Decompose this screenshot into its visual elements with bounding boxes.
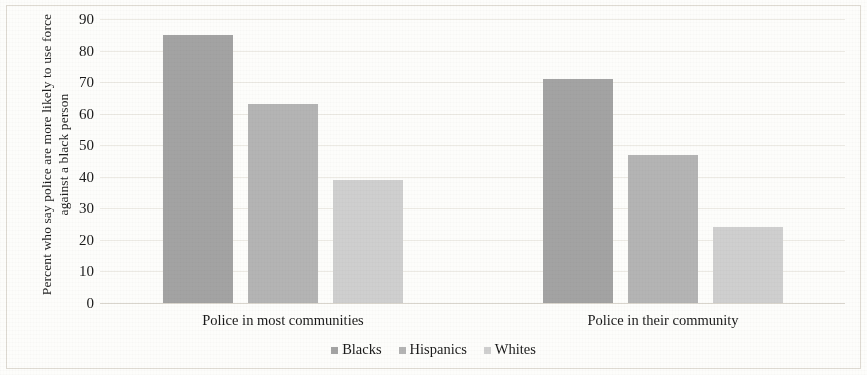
legend-label: Whites <box>495 341 536 358</box>
legend-swatch-icon <box>331 347 338 354</box>
legend-swatch-icon <box>484 347 491 354</box>
y-axis-tick-label: 20 <box>79 231 94 248</box>
y-axis-tick-label: 90 <box>79 11 94 28</box>
x-axis-category-label: Police in most communities <box>202 312 364 329</box>
bar-whites-2 <box>713 227 783 303</box>
legend-item-whites: Whites <box>484 341 536 358</box>
chart-legend: BlacksHispanicsWhites <box>0 341 867 358</box>
y-axis-tick-label: 0 <box>87 295 95 312</box>
bar-hispanics-2 <box>628 155 698 303</box>
bar-blacks-2 <box>543 79 613 303</box>
y-axis-tick-label: 30 <box>79 200 94 217</box>
y-axis-tick-labels: 9080706050403020100 <box>56 0 94 375</box>
bar-hispanics-1 <box>248 104 318 303</box>
x-axis-category-label: Police in their community <box>587 312 738 329</box>
legend-label: Blacks <box>342 341 381 358</box>
bar-blacks-1 <box>163 35 233 303</box>
y-axis-tick-label: 40 <box>79 168 94 185</box>
y-axis-tick-label: 80 <box>79 42 94 59</box>
legend-swatch-icon <box>399 347 406 354</box>
y-axis-tick-label: 60 <box>79 105 94 122</box>
gridline <box>100 19 845 20</box>
y-axis-tick-label: 10 <box>79 263 94 280</box>
bar-whites-1 <box>333 180 403 303</box>
x-axis-line <box>100 303 845 304</box>
y-axis-tick-label: 70 <box>79 74 94 91</box>
bar-chart-figure: Percent who say police are more likely t… <box>0 0 867 375</box>
legend-item-blacks: Blacks <box>331 341 381 358</box>
y-axis-tick-label: 50 <box>79 137 94 154</box>
plot-area <box>100 19 845 303</box>
legend-label: Hispanics <box>410 341 467 358</box>
legend-item-hispanics: Hispanics <box>399 341 467 358</box>
